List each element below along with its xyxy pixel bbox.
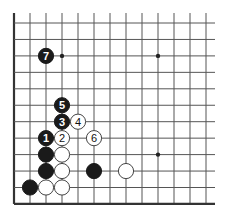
move-number-label: 3: [59, 116, 65, 128]
black-stone: [22, 180, 37, 195]
black-stone-disc: [86, 163, 101, 178]
white-stone-disc: [118, 163, 133, 178]
black-stone-move-5: 5: [54, 98, 69, 113]
black-stone: [38, 163, 53, 178]
move-number-label: 6: [91, 132, 97, 144]
move-number-label: 2: [59, 132, 65, 144]
black-stone: [86, 163, 101, 178]
white-stone-disc: [54, 163, 69, 178]
white-stone-move-4: 4: [70, 114, 85, 129]
star-point: [156, 54, 160, 58]
black-stone-disc: [38, 147, 53, 162]
move-number-label: 5: [59, 99, 65, 111]
white-stone-disc: [54, 147, 69, 162]
black-stone-disc: [38, 163, 53, 178]
black-stone: [38, 147, 53, 162]
black-stone-move-1: 1: [38, 131, 53, 146]
star-point: [60, 54, 64, 58]
move-number-label: 7: [43, 50, 49, 62]
black-stone-move-7: 7: [38, 48, 53, 63]
white-stone: [118, 163, 133, 178]
move-number-label: 1: [43, 132, 49, 144]
white-stone-disc: [38, 180, 53, 195]
black-stone-disc: [22, 180, 37, 195]
go-board-diagram: 7534126: [0, 0, 227, 218]
black-stone-move-3: 3: [54, 114, 69, 129]
star-point: [156, 152, 160, 156]
white-stone-disc: [54, 180, 69, 195]
white-stone: [54, 180, 69, 195]
white-stone: [54, 147, 69, 162]
move-number-label: 4: [75, 116, 81, 128]
white-stone-move-6: 6: [86, 131, 101, 146]
white-stone: [54, 163, 69, 178]
white-stone-move-2: 2: [54, 131, 69, 146]
white-stone: [38, 180, 53, 195]
